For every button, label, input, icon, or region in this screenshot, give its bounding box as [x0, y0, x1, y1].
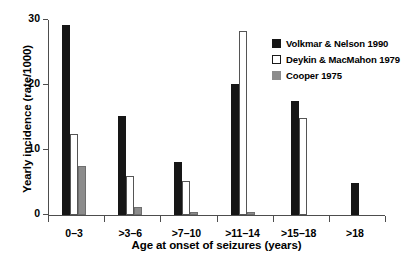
legend-item: Cooper 1975 [272, 68, 400, 82]
bar-chart-figure: Yearly incidence (rate/1000) 0102030 0–3… [0, 0, 405, 266]
y-axis-tick: 0 [43, 214, 48, 215]
y-axis-tick: 10 [43, 149, 48, 150]
x-axis-category-label: >15–18 [281, 227, 316, 239]
bar [62, 25, 70, 215]
x-axis-category-label: >7–10 [172, 227, 202, 239]
x-axis-tick [217, 216, 218, 222]
legend-swatch-gray-icon [272, 71, 281, 80]
legend-swatch-white-icon [272, 55, 281, 64]
y-axis-title: Yearly incidence (rate/1000) [21, 19, 33, 219]
y-axis-tick-label: 20 [28, 77, 40, 89]
bar-group [174, 20, 198, 215]
legend-item: Volkmar & Nelson 1990 [272, 36, 400, 50]
bar [78, 166, 86, 215]
legend-swatch-black-icon [272, 39, 281, 48]
x-axis-tick [273, 216, 274, 222]
x-axis-title: Age at onset of seizures (years) [48, 239, 385, 251]
legend-label: Cooper 1975 [286, 70, 342, 81]
x-axis-tick [104, 216, 105, 222]
bar [70, 134, 78, 215]
bar [134, 207, 142, 215]
legend-label: Deykin & MacMahon 1979 [286, 54, 400, 65]
x-axis-category-label: >11–14 [225, 227, 260, 239]
x-axis-tick [385, 216, 386, 222]
bar [247, 212, 255, 215]
bar [239, 31, 247, 215]
y-axis-tick-label: 10 [28, 142, 40, 154]
x-axis-category-label: >3–6 [118, 227, 142, 239]
x-axis-category-label: >18 [346, 227, 364, 239]
bar [118, 116, 126, 215]
chart-legend: Volkmar & Nelson 1990Deykin & MacMahon 1… [272, 36, 400, 84]
bar [299, 118, 307, 216]
bar [182, 181, 190, 215]
legend-item: Deykin & MacMahon 1979 [272, 52, 400, 66]
x-axis-tick [329, 216, 330, 222]
y-axis-line [48, 20, 49, 215]
x-axis-tick [160, 216, 161, 222]
y-axis-tick-label: 0 [34, 207, 40, 219]
bar [126, 176, 134, 215]
bar [291, 101, 299, 215]
bar [174, 162, 182, 215]
legend-label: Volkmar & Nelson 1990 [286, 38, 388, 49]
bar [351, 183, 359, 216]
bar-group [118, 20, 142, 215]
x-axis-category-label: 0–3 [65, 227, 83, 239]
bar [190, 212, 198, 215]
bar-group [231, 20, 255, 215]
bar [231, 84, 239, 215]
y-axis-tick: 30 [43, 19, 48, 20]
y-axis-tick-label: 30 [28, 12, 40, 24]
x-axis-tick [48, 216, 49, 222]
bar-group [62, 20, 86, 215]
y-axis-tick: 20 [43, 84, 48, 85]
